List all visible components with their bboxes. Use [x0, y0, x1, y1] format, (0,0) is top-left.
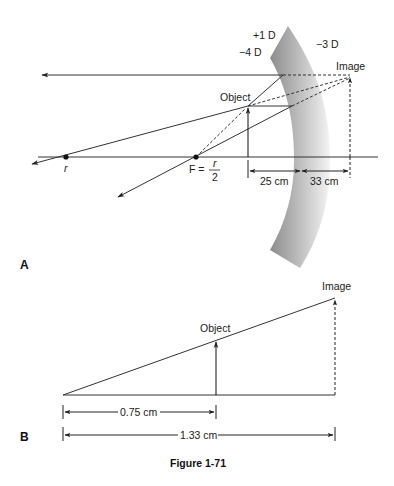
ray-object-to-lens-top: [248, 75, 283, 106]
panel-a-label: A: [20, 258, 29, 272]
ray-f-dashed-back: [196, 108, 246, 157]
object-label-b: Object: [200, 322, 230, 334]
dist-25cm-label: 25 cm: [260, 175, 289, 187]
f-point: [193, 154, 198, 159]
panel-b: 0.75 cm 1.33 cm Object Image B: [20, 280, 351, 444]
dist-133-label: 1.33 cm: [180, 429, 218, 441]
image-label-a: Image: [336, 60, 365, 72]
focal-denominator: 2: [212, 171, 218, 183]
hypotenuse-b: [63, 298, 335, 395]
lens-power-minus3: −3 D: [316, 38, 339, 50]
r-point: [63, 154, 68, 159]
lens-shape: [270, 26, 330, 268]
lens-power-minus4: −4 D: [239, 46, 262, 58]
figure-caption: Figure 1-71: [170, 457, 226, 469]
object-label-a: Object: [220, 91, 250, 103]
r-label: r: [64, 162, 68, 174]
lens-power-plus1: +1 D: [253, 29, 276, 41]
dist-075-label: 0.75 cm: [120, 406, 158, 418]
optics-figure: +1 D −4 D −3 D Image Object r F = r 2 25…: [0, 0, 394, 486]
focal-label: F =: [189, 163, 204, 175]
focal-numerator: r: [213, 157, 217, 169]
panel-b-label: B: [20, 430, 29, 444]
dist-33cm-label: 33 cm: [310, 175, 339, 187]
panel-a: +1 D −4 D −3 D Image Object r F = r 2 25…: [20, 26, 378, 272]
image-label-b: Image: [322, 280, 351, 292]
